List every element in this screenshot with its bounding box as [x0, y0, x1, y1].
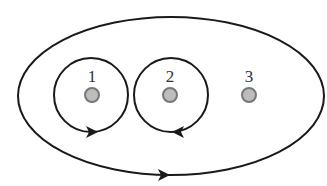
loop-2-arrow-icon	[172, 126, 184, 138]
charge-2-label: 2	[166, 67, 175, 86]
charge-1-label: 1	[88, 67, 97, 86]
charge-loops-diagram: 1 2 3	[0, 0, 327, 186]
charge-1-dot	[85, 88, 99, 102]
charge-2: 2	[163, 67, 177, 102]
charge-3-dot	[242, 88, 256, 102]
charge-1: 1	[85, 67, 99, 102]
charge-3: 3	[242, 67, 256, 102]
charge-3-label: 3	[245, 67, 254, 86]
charge-2-dot	[163, 88, 177, 102]
